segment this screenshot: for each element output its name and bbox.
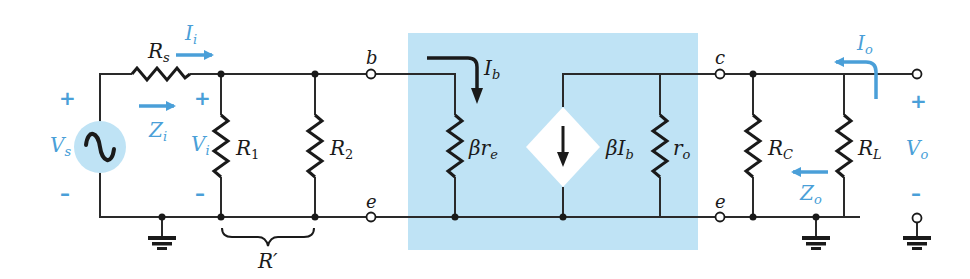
resistor-rl bbox=[837, 115, 851, 177]
vi-plus-sign: + bbox=[194, 86, 211, 110]
vo-plus-sign: + bbox=[910, 89, 927, 113]
vi-minus-sign: – bbox=[195, 181, 205, 205]
vo-minus-sign: – bbox=[911, 181, 921, 205]
ground-icon bbox=[903, 236, 931, 250]
input-current-label: Ii bbox=[184, 21, 197, 47]
output-current-label: Io bbox=[856, 31, 873, 57]
rl-label: RL bbox=[857, 136, 882, 162]
output-terminal-bottom bbox=[913, 214, 922, 223]
terminal-e-out bbox=[716, 213, 725, 222]
resistor-r2 bbox=[308, 115, 322, 177]
ground-icon bbox=[148, 236, 176, 250]
ground-icon bbox=[802, 236, 830, 250]
output-impedance-label: Zo bbox=[799, 181, 822, 207]
output-current-arrow bbox=[836, 62, 876, 99]
rs-label: Rs bbox=[147, 39, 170, 65]
source-plus-sign: + bbox=[59, 86, 76, 110]
output-voltage-label: Vo bbox=[906, 136, 928, 162]
resistor-rc bbox=[746, 115, 760, 177]
source-minus-sign: – bbox=[60, 181, 70, 205]
ac-sine-source-icon bbox=[74, 121, 126, 173]
terminal-e-in bbox=[367, 213, 376, 222]
bjt-re-model-circuit-diagram: + – Vs Rs Ii Zi + – Vi R1 R2 R′ b e c e … bbox=[0, 0, 970, 279]
source-voltage-label: Vs bbox=[50, 133, 71, 159]
terminal-b-label: b bbox=[366, 47, 378, 68]
terminal-c-label: c bbox=[715, 47, 725, 68]
output-terminal-top bbox=[913, 70, 922, 79]
r1-label: R1 bbox=[235, 136, 259, 162]
terminal-b bbox=[367, 70, 376, 79]
input-impedance-label: Zi bbox=[148, 118, 167, 144]
terminal-e-out-label: e bbox=[715, 191, 726, 212]
parallel-brace bbox=[222, 228, 314, 246]
terminal-c bbox=[716, 70, 725, 79]
terminal-e-in-label: e bbox=[366, 191, 377, 212]
r2-label: R2 bbox=[329, 136, 353, 162]
resistor-r1 bbox=[214, 115, 228, 177]
input-voltage-label: Vi bbox=[191, 132, 210, 158]
resistor-rs bbox=[132, 68, 190, 80]
r-prime-label: R′ bbox=[257, 249, 278, 273]
rc-label: RC bbox=[767, 136, 793, 162]
